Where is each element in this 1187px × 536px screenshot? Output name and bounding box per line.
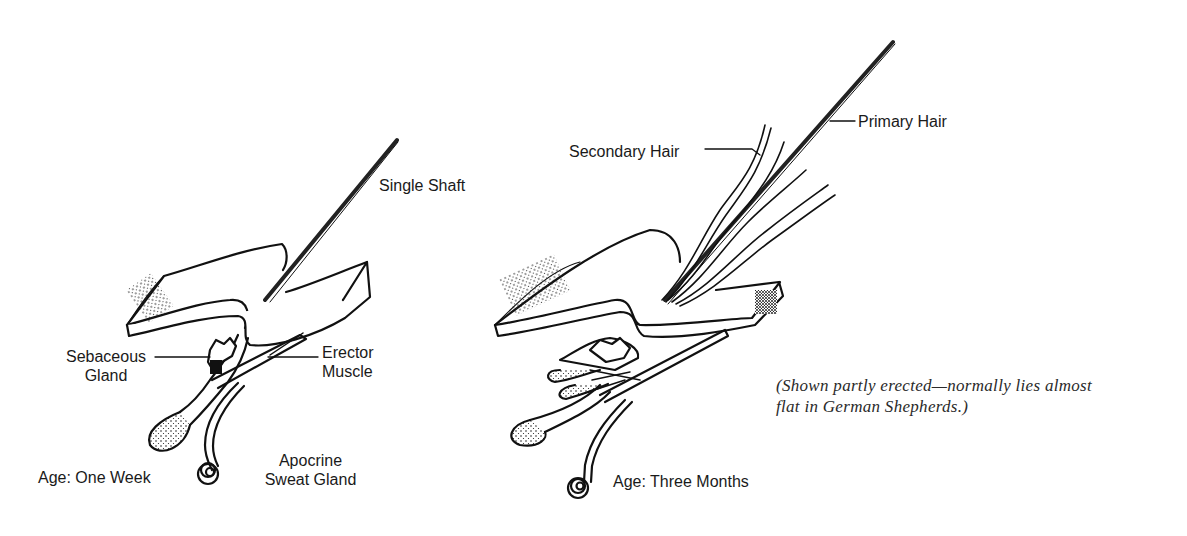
apocrine-label-line1: Apocrine — [248, 451, 373, 470]
sebaceous-label-line2: Gland — [56, 366, 156, 385]
erector-label-line1: Erector — [322, 343, 374, 362]
erector-muscle-label: Erector Muscle — [322, 343, 374, 381]
single-shaft-label: Single Shaft — [379, 176, 465, 195]
sebaceous-gland-label: Sebaceous Gland — [56, 347, 156, 385]
one-week-follicle-drawing — [126, 140, 398, 484]
sebaceous-label-line1: Sebaceous — [56, 347, 156, 366]
apocrine-label-line2: Sweat Gland — [248, 470, 373, 489]
three-months-follicle-drawing — [495, 42, 895, 498]
primary-hair-label: Primary Hair — [858, 112, 947, 131]
apocrine-sweat-gland-label: Apocrine Sweat Gland — [248, 451, 373, 489]
age-three-months-label: Age: Three Months — [613, 472, 749, 491]
caption-line1: (Shown partly erected—normally lies almo… — [776, 375, 1092, 396]
caption-line2: flat in German Shepherds.) — [776, 396, 1092, 417]
secondary-hair-label: Secondary Hair — [569, 142, 679, 161]
erector-label-line2: Muscle — [322, 362, 374, 381]
figure-caption: (Shown partly erected—normally lies almo… — [776, 375, 1092, 417]
age-one-week-label: Age: One Week — [38, 468, 151, 487]
hair-follicle-illustration — [0, 0, 1187, 536]
